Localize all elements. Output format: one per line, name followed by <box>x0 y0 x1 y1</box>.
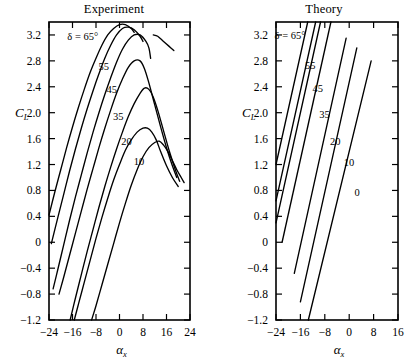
panel-theory: Theory −1.2−0.8−0.400.40.81.21.62.02.42.… <box>206 0 412 363</box>
x-tick-label: 24 <box>184 326 196 338</box>
x-tick-label: 8 <box>140 326 146 338</box>
chart-theory: −1.2−0.8−0.400.40.81.21.62.02.42.83.2−24… <box>206 0 412 363</box>
x-tick-label: −16 <box>291 326 309 338</box>
plot-frame <box>276 22 398 320</box>
curve-annotation: 20 <box>330 136 341 147</box>
data-curve <box>294 38 346 273</box>
data-curve <box>74 128 178 320</box>
data-curve <box>59 60 177 294</box>
curve-annotation: 45 <box>313 83 324 94</box>
curve-annotation: 35 <box>113 111 124 122</box>
panel-experiment: Experiment −1.2−0.8−0.400.40.81.21.62.02… <box>0 0 206 363</box>
y-tick-label: 2.8 <box>27 55 42 67</box>
y-tick-label: 2.4 <box>27 81 42 93</box>
figure-two-panel-lift-curves: Experiment −1.2−0.8−0.400.40.81.21.62.02… <box>0 0 412 363</box>
curve-annotation: 20 <box>121 136 132 147</box>
x-tick-label: 0 <box>117 326 123 338</box>
chart-experiment: −1.2−0.8−0.400.40.81.21.62.02.42.83.2−24… <box>0 0 206 363</box>
x-tick-label: −8 <box>319 326 331 338</box>
y-tick-label: −0.4 <box>247 262 268 274</box>
y-tick-label: 2.4 <box>254 81 269 93</box>
y-tick-label: 1.6 <box>254 133 269 145</box>
curve-annotation: 45 <box>107 84 118 95</box>
curve-annotation: 0 <box>355 187 360 198</box>
data-curve <box>300 48 356 302</box>
data-curve <box>92 141 185 320</box>
curve-annotation: 55 <box>98 61 109 72</box>
y-tick-label: −0.8 <box>247 288 268 300</box>
y-tick-label: 1.2 <box>27 159 42 171</box>
x-tick-label: −8 <box>90 326 102 338</box>
y-tick-label: 0.8 <box>254 184 269 196</box>
x-tick-label: 16 <box>161 326 173 338</box>
data-curve <box>276 22 308 165</box>
y-tick-label: 2.0 <box>27 107 42 119</box>
x-axis-label: αx <box>334 342 345 359</box>
y-tick-label: −0.8 <box>20 288 41 300</box>
y-tick-label: 1.2 <box>254 159 269 171</box>
y-tick-label: 0.4 <box>254 210 269 222</box>
x-tick-label: −16 <box>64 326 82 338</box>
y-tick-label: −1.2 <box>247 314 268 326</box>
panel-title-experiment: Experiment <box>0 2 206 17</box>
curve-annotation: 10 <box>344 157 355 168</box>
y-tick-label: 0.4 <box>27 210 42 222</box>
x-tick-label: −24 <box>267 326 285 338</box>
curve-annotation: 35 <box>319 109 330 120</box>
y-tick-label: 0 <box>35 236 41 248</box>
y-tick-label: 1.6 <box>27 133 42 145</box>
x-tick-label: 16 <box>392 326 404 338</box>
data-curve <box>276 22 321 223</box>
x-tick-label: 0 <box>346 326 352 338</box>
x-axis-label: αx <box>116 342 127 359</box>
y-tick-label: 2.8 <box>254 55 269 67</box>
y-tick-label: 0.8 <box>27 184 42 196</box>
y-tick-label: 0 <box>262 236 268 248</box>
curve-annotation: 10 <box>134 156 145 167</box>
panel-title-theory: Theory <box>206 2 412 17</box>
y-tick-label: −1.2 <box>20 314 41 326</box>
data-curve <box>153 35 174 51</box>
x-tick-label: 8 <box>371 326 377 338</box>
x-tick-label: −24 <box>40 326 58 338</box>
y-tick-label: 2.0 <box>254 107 269 119</box>
curve-annotation: 55 <box>305 60 316 71</box>
data-curve <box>276 22 316 201</box>
curve-annotation: δ = 65° <box>275 30 306 41</box>
data-curve <box>308 61 371 320</box>
curve-annotation: δ = 65° <box>67 31 98 42</box>
y-tick-label: 3.2 <box>27 29 42 41</box>
y-tick-label: −0.4 <box>20 262 41 274</box>
y-tick-label: 3.2 <box>254 29 269 41</box>
data-curve <box>282 22 331 242</box>
